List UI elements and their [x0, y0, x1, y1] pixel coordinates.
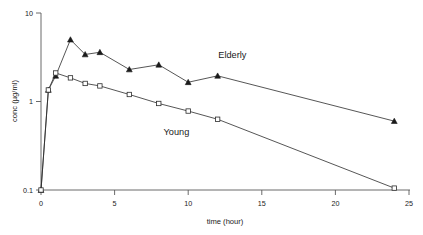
series-young	[39, 71, 397, 192]
series-elderly	[38, 37, 397, 193]
data-point	[186, 109, 190, 113]
data-point	[215, 117, 219, 121]
x-tick-label-15: 15	[258, 199, 266, 208]
series-label-young: Young	[164, 127, 190, 137]
y-tick-label-0-1: 0.1	[23, 186, 33, 195]
y-axis-title: conc (µg/ml)	[10, 80, 19, 122]
data-point	[83, 81, 87, 85]
data-point	[157, 101, 161, 105]
data-point	[39, 188, 43, 192]
x-tick-label-0: 0	[39, 199, 43, 208]
series-line-young	[41, 73, 394, 190]
data-point	[127, 92, 131, 96]
data-point	[68, 37, 74, 42]
data-point	[46, 88, 50, 92]
data-point	[97, 49, 103, 54]
data-point	[68, 76, 72, 80]
y-tick-label-1: 1	[29, 97, 33, 106]
x-axis-title: time (hour)	[207, 217, 244, 226]
y-tick-label-10: 10	[25, 9, 33, 18]
series-label-elderly: Elderly	[218, 50, 246, 60]
series-layer	[38, 37, 397, 193]
x-tick-label-10: 10	[184, 199, 192, 208]
data-point	[98, 84, 102, 88]
data-point	[156, 62, 162, 67]
data-point	[54, 71, 58, 75]
pharmacokinetic-chart: 10 1 0.1 0 5 10 15 20 25 time (hour) con…	[0, 0, 423, 235]
x-tick-label-25: 25	[405, 199, 413, 208]
chart-plot-area: 10 1 0.1 0 5 10 15 20 25 time (hour) con…	[0, 0, 423, 235]
data-point	[392, 186, 396, 190]
x-tick-label-5: 5	[113, 199, 117, 208]
data-point	[215, 73, 221, 78]
x-tick-label-20: 20	[331, 199, 339, 208]
